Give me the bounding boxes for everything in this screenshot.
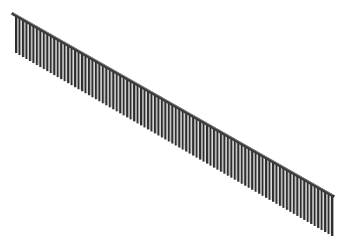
baluster [324,191,327,232]
railing-render [0,0,348,246]
baluster [25,21,28,59]
baluster [227,136,230,176]
baluster [296,175,299,216]
baluster [67,45,70,83]
baluster [157,96,160,135]
baluster [161,98,164,137]
baluster [43,31,46,69]
baluster [189,114,192,154]
baluster [32,25,35,63]
baluster [209,126,212,166]
baluster [230,138,233,178]
baluster [154,94,157,133]
baluster [275,163,278,203]
baluster [50,35,53,73]
baluster [237,142,240,182]
baluster [84,55,87,94]
baluster [53,37,56,75]
baluster [178,108,181,148]
baluster [88,57,91,96]
baluster [147,90,150,129]
baluster [314,185,317,226]
baluster [192,116,195,156]
baluster [143,88,146,127]
baluster [112,70,115,109]
baluster [255,151,258,191]
baluster [60,41,63,79]
baluster [22,19,25,57]
baluster [282,167,285,208]
baluster [251,150,254,190]
baluster [196,118,199,158]
baluster [220,132,223,172]
baluster [57,39,60,77]
baluster [64,43,67,81]
baluster [199,120,202,160]
baluster [164,100,167,139]
baluster [78,51,81,90]
baluster [95,60,98,99]
baluster [268,159,271,199]
baluster [206,124,209,164]
baluster [175,106,178,146]
baluster [150,92,153,131]
baluster [248,148,251,188]
baluster [213,128,216,168]
baluster [98,62,101,101]
baluster [71,47,74,86]
baluster [102,64,105,103]
baluster [265,157,268,197]
baluster [307,181,310,222]
baluster [300,177,303,218]
baluster [279,165,282,206]
baluster [36,27,39,65]
baluster [185,112,188,152]
baluster [130,80,133,119]
baluster [137,84,140,123]
baluster [328,193,331,234]
baluster [303,179,306,220]
baluster [74,49,77,88]
handrail [13,13,333,196]
baluster [171,104,174,143]
baluster [272,161,275,201]
baluster [286,169,289,210]
baluster [216,130,219,170]
baluster [321,189,324,230]
baluster [91,59,94,98]
baluster [15,15,18,53]
baluster [119,74,122,113]
baluster [133,82,136,121]
baluster [289,171,292,212]
baluster [168,102,171,141]
baluster [234,140,237,180]
baluster [140,86,143,125]
baluster [18,17,21,55]
baluster [46,33,49,71]
baluster [123,76,126,115]
baluster [116,72,119,111]
baluster [29,23,32,61]
baluster [105,66,108,105]
baluster [262,155,265,195]
baluster [331,195,334,236]
baluster [317,187,320,228]
baluster [109,68,112,107]
baluster [126,78,129,117]
baluster [241,144,244,184]
baluster [203,122,206,162]
baluster [293,173,296,214]
baluster [39,29,42,67]
balusters [15,15,334,236]
baluster [310,183,313,224]
baluster [81,53,84,92]
baluster [182,110,185,150]
baluster [244,146,247,186]
baluster [258,153,261,193]
baluster [223,134,226,174]
